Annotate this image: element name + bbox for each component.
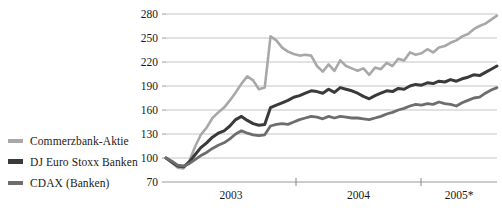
legend-item-cdax-banken: CDAX (Banken) xyxy=(8,175,158,190)
chart-container: 70100130160190220250280200320042005* Com… xyxy=(0,0,502,217)
x-axis-tick-label: 2004 xyxy=(347,189,370,201)
y-axis-tick-label: 220 xyxy=(141,56,159,68)
series-line-cdax-banken xyxy=(166,88,497,166)
chart-legend: Commerzbank-Aktie DJ Euro Stoxx Banken C… xyxy=(8,133,158,196)
legend-swatch-dj-euro-stoxx-banken xyxy=(8,159,23,164)
legend-item-dj-euro-stoxx-banken: DJ Euro Stoxx Banken xyxy=(8,154,158,169)
legend-label-dj-euro-stoxx-banken: DJ Euro Stoxx Banken xyxy=(30,156,138,168)
x-axis-tick-label: 2003 xyxy=(220,189,243,201)
legend-swatch-commerzbank-aktie xyxy=(8,139,23,143)
legend-swatch-cdax-banken xyxy=(8,181,23,185)
y-axis-tick-label: 280 xyxy=(141,8,159,20)
y-axis-tick-label: 160 xyxy=(141,104,159,116)
y-axis-tick-label: 250 xyxy=(141,32,159,44)
legend-item-commerzbank-aktie: Commerzbank-Aktie xyxy=(8,133,158,148)
y-axis-tick-label: 190 xyxy=(141,80,159,92)
legend-label-commerzbank-aktie: Commerzbank-Aktie xyxy=(30,135,129,147)
x-axis-tick-label: 2005* xyxy=(445,189,474,201)
legend-label-cdax-banken: CDAX (Banken) xyxy=(30,177,110,189)
